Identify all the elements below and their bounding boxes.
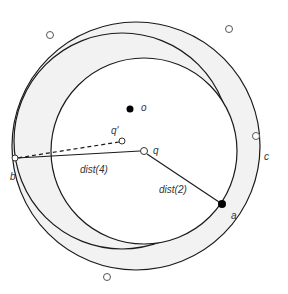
label-o: o (141, 102, 147, 113)
scattered-point-4 (104, 274, 111, 281)
label-c: c (264, 151, 269, 162)
label-dist4: dist(4) (80, 164, 108, 175)
scattered-point-3 (253, 133, 260, 140)
point-b (12, 155, 18, 161)
label-q-prime: q' (111, 125, 120, 136)
point-a (218, 200, 226, 208)
diagram-canvas: o q' q a b c dist(4) dist(2) (0, 0, 288, 294)
scattered-point-2 (226, 26, 233, 33)
label-a: a (231, 210, 237, 221)
point-q (141, 148, 148, 155)
point-o (127, 106, 134, 113)
label-b: b (10, 171, 16, 182)
label-dist2: dist(2) (159, 184, 187, 195)
scattered-point-1 (47, 32, 54, 39)
point-q-prime (119, 138, 125, 144)
label-q: q (153, 145, 159, 156)
